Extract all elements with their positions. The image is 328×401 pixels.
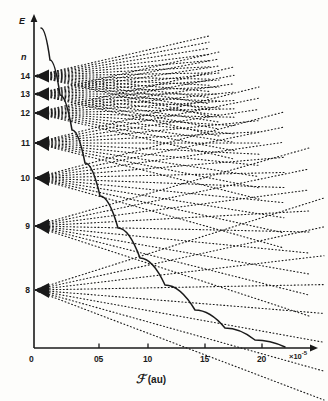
x-axis-exponent: ×10-5 bbox=[289, 350, 307, 361]
plot-canvas bbox=[0, 0, 328, 401]
stark-level-line-dotted bbox=[37, 109, 234, 113]
level-label-n9: 9 bbox=[8, 221, 30, 231]
stark-level-line-dotted bbox=[39, 291, 324, 371]
stark-level-line-dotted bbox=[39, 226, 309, 253]
level-convergence-wedge bbox=[35, 106, 49, 120]
level-convergence-wedge bbox=[35, 87, 49, 100]
stark-level-line-dotted bbox=[38, 142, 284, 177]
stark-level-line-dotted bbox=[38, 179, 284, 233]
stark-level-line-dotted bbox=[37, 42, 209, 75]
stark-level-line-dotted bbox=[38, 172, 284, 177]
stark-level-line-dotted bbox=[39, 285, 324, 290]
stark-level-line-dotted bbox=[37, 36, 209, 75]
stark-level-line-dotted bbox=[39, 290, 324, 313]
level-convergence-wedge bbox=[35, 70, 49, 83]
x-axis-label: ℱ (au) bbox=[136, 372, 166, 387]
y-axis-quantum-number-label: n bbox=[21, 52, 27, 62]
stark-manifold-n10 bbox=[35, 112, 284, 248]
exponent-prefix: ×10 bbox=[289, 352, 302, 361]
stark-level-line-dotted bbox=[38, 178, 284, 202]
stark-manifold-n9 bbox=[35, 148, 309, 316]
stark-level-line-dotted bbox=[39, 227, 309, 295]
level-convergence-wedge bbox=[35, 136, 49, 151]
x-tick-label: 05 bbox=[94, 354, 103, 364]
stark-level-line-dotted bbox=[39, 198, 324, 288]
x-tick-label: 15 bbox=[200, 354, 209, 364]
stark-map-figure: E n ℱ (au) ×10-5 005101520 141312111098 bbox=[0, 0, 328, 401]
level-convergence-wedge bbox=[35, 283, 49, 298]
stark-level-line-dotted bbox=[39, 227, 309, 274]
stark-level-line-dotted bbox=[37, 76, 209, 103]
stark-level-line-dotted bbox=[39, 227, 324, 289]
stark-level-line-dotted bbox=[37, 114, 234, 159]
stark-level-line-dotted bbox=[39, 148, 309, 225]
level-label-n12: 12 bbox=[8, 108, 30, 118]
level-label-n14: 14 bbox=[8, 71, 30, 81]
y-axis-arrowhead bbox=[31, 14, 38, 22]
classical-ionization-limit-curve bbox=[41, 28, 285, 347]
stark-level-line-dotted bbox=[38, 144, 259, 177]
level-convergence-wedge bbox=[35, 171, 49, 186]
stark-level-line-dotted bbox=[38, 179, 284, 248]
field-units: (au) bbox=[148, 374, 166, 385]
level-convergence-wedge bbox=[35, 219, 49, 234]
level-label-n10: 10 bbox=[8, 173, 30, 183]
y-axis-label: E bbox=[19, 16, 25, 26]
field-symbol: ℱ bbox=[136, 372, 145, 386]
stark-manifold-n8 bbox=[35, 198, 324, 400]
x-axis-arrowhead bbox=[310, 345, 318, 352]
stark-level-line-dotted bbox=[37, 94, 219, 122]
exponent-power: -5 bbox=[302, 350, 307, 356]
level-label-n8: 8 bbox=[8, 285, 30, 295]
x-tick-label: 10 bbox=[143, 354, 152, 364]
stark-level-line-dotted bbox=[38, 143, 259, 154]
stark-level-line-dotted bbox=[39, 190, 309, 225]
level-label-n11: 11 bbox=[8, 138, 30, 148]
x-tick-label: 20 bbox=[257, 354, 266, 364]
level-label-n13: 13 bbox=[8, 89, 30, 99]
stark-level-line-dotted bbox=[37, 54, 209, 75]
stark-level-line-dotted bbox=[38, 178, 284, 187]
stark-level-line-dotted bbox=[39, 256, 324, 290]
x-tick-label: 0 bbox=[29, 354, 33, 364]
stark-level-line-dotted bbox=[39, 291, 324, 342]
